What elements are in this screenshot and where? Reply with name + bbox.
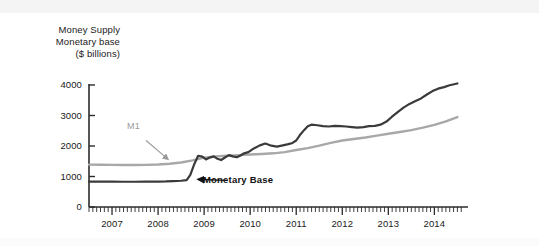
x-axis-tick-label: 2007	[90, 218, 134, 229]
chart-figure: Money Supply Monetary base ($ billions) …	[0, 0, 539, 246]
x-axis-tick-label: 2013	[366, 218, 410, 229]
x-axis-tick-label: 2014	[412, 218, 456, 229]
y-axis-tick-label: 1000	[42, 171, 82, 182]
x-axis-tick-label: 2009	[182, 218, 226, 229]
x-axis-tick-label: 2008	[136, 218, 180, 229]
y-axis-tick-label: 2000	[42, 140, 82, 151]
x-axis-tick-label: 2012	[320, 218, 364, 229]
monetary-base-series-annotation: Monetary Base	[203, 174, 273, 185]
x-axis-tick-label: 2011	[274, 218, 318, 229]
m1-series-annotation: M1	[127, 121, 140, 131]
y-axis-tick-label: 3000	[42, 110, 82, 121]
y-axis-tick-label: 0	[42, 201, 82, 212]
x-axis-tick-label: 2010	[228, 218, 272, 229]
y-axis-tick-label: 4000	[42, 79, 82, 90]
